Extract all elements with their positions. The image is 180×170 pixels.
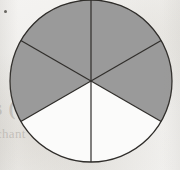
figure-canvas: s (OUFT) chant what doma	[0, 0, 180, 170]
fraction-circle-diagram	[0, 0, 180, 170]
